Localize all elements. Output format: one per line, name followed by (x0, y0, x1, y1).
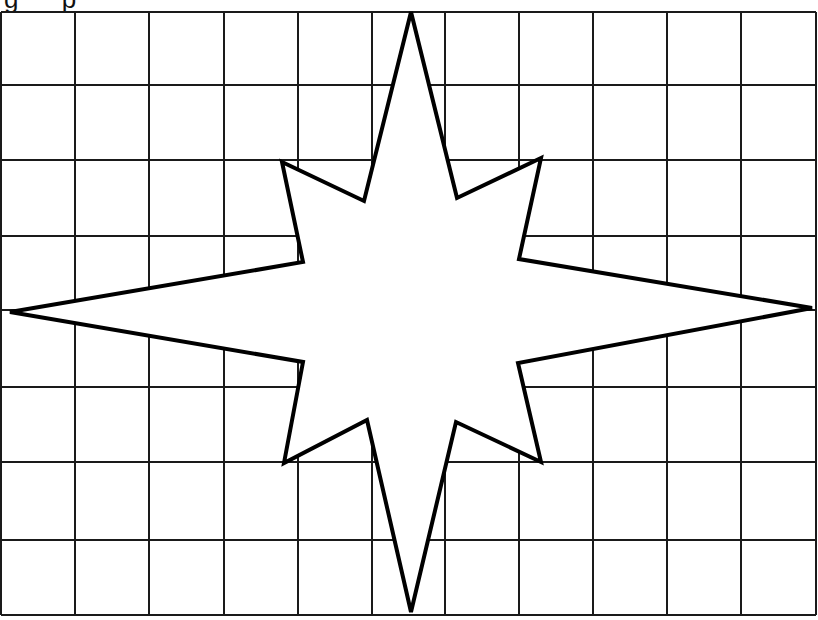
grid-star-diagram (0, 0, 818, 620)
eight-point-star (10, 12, 812, 612)
